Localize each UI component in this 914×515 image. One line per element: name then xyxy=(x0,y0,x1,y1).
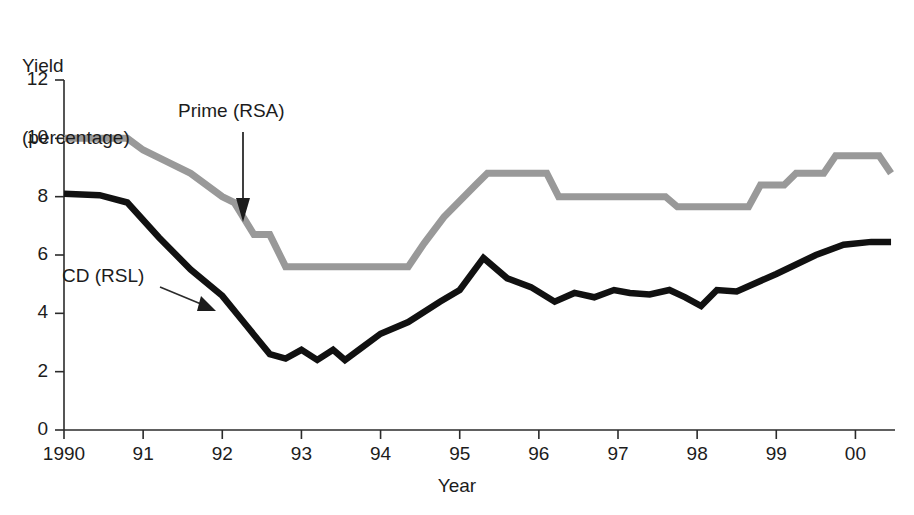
cd-series-annotation: CD (RSL) xyxy=(62,265,144,287)
plot-area xyxy=(0,0,914,515)
cd-annotation-arrow-head xyxy=(197,296,216,311)
y-axis-tick-label: 8 xyxy=(0,185,48,207)
x-axis-ticks xyxy=(64,430,855,439)
cd-annotation-arrow-shaft xyxy=(160,287,201,304)
cd-rsl-series-line xyxy=(64,194,891,360)
y-axis-tick-label: 10 xyxy=(0,126,48,148)
prime-series-annotation: Prime (RSA) xyxy=(178,100,285,122)
axis-lines xyxy=(64,80,895,430)
yield-line-chart: Yield (percentage) Prime (RSA) CD (RSL) … xyxy=(0,0,914,515)
x-axis-title: Year xyxy=(0,474,914,498)
y-axis-tick-label: 2 xyxy=(0,360,48,382)
y-axis-tick-label: 6 xyxy=(0,243,48,265)
y-axis-tick-label: 12 xyxy=(0,68,48,90)
y-axis-tick-label: 4 xyxy=(0,301,48,323)
y-axis-title: Yield (percentage) xyxy=(22,6,130,198)
prime-rsa-series-line xyxy=(64,138,891,266)
x-axis-tick-label: 00 xyxy=(795,443,914,465)
series-layer xyxy=(64,138,891,360)
y-axis-tick-label: 0 xyxy=(0,418,48,440)
